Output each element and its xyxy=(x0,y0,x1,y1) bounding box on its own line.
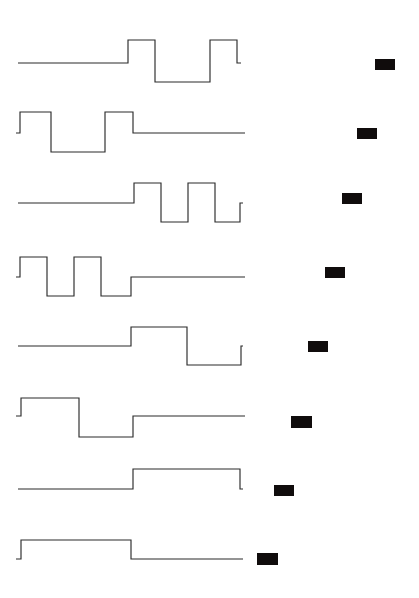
position-marker xyxy=(257,553,278,565)
position-marker xyxy=(325,267,345,278)
position-marker xyxy=(342,193,362,204)
position-marker xyxy=(274,485,294,496)
position-marker xyxy=(357,128,377,139)
position-marker xyxy=(375,59,395,70)
waveform-figure: Digital waveform timing diagram xyxy=(0,0,419,598)
waveform-trace xyxy=(18,327,243,365)
waveform-trace xyxy=(16,398,245,437)
waveform-trace xyxy=(16,540,243,559)
waveform-trace xyxy=(16,257,245,296)
waveform-canvas xyxy=(0,0,419,598)
position-marker xyxy=(291,416,312,428)
waveform-trace xyxy=(16,112,245,152)
waveform-trace xyxy=(18,40,241,82)
waveform-trace xyxy=(18,469,243,489)
position-marker xyxy=(308,341,328,352)
traces-layer xyxy=(16,40,245,559)
waveform-trace xyxy=(18,183,243,222)
markers-layer xyxy=(257,59,395,565)
